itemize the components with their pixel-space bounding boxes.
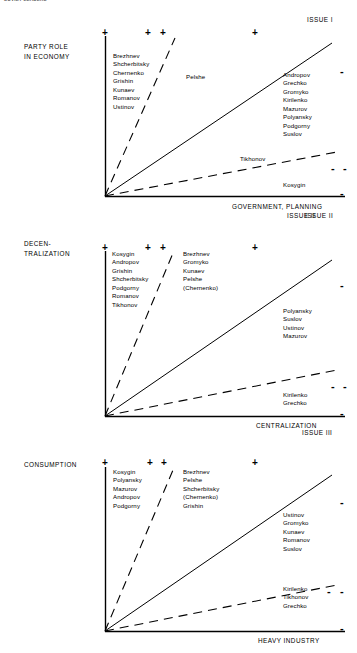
panel-3-group-bottom: Kirilenko Tikhonov Grechko <box>283 585 308 610</box>
name-item: Brezhnev <box>183 250 218 258</box>
name-item: Grechko <box>283 399 307 407</box>
name-item: Podgorny <box>283 122 312 130</box>
name-item: Romanov <box>113 94 149 102</box>
plus-sign-2: + <box>147 458 153 468</box>
minus-sign-4: - <box>340 188 344 198</box>
name-item: Kirilenko <box>283 96 312 104</box>
side-title-line-1: DECEN- <box>24 239 70 249</box>
panel-issue-1: PARTY ROLE IN ECONOMY ISSUE I + + + + - … <box>0 0 357 218</box>
minus-sign-1: - <box>340 497 344 507</box>
minus-sign-4: - <box>340 408 344 418</box>
panel-2-group-mid: Brezhnev Gromyko Kunaev Pelshe (Chernenk… <box>183 250 218 292</box>
name-item: Brezhnev <box>113 52 149 60</box>
plus-sign-3: + <box>160 28 166 38</box>
plus-sign-4: + <box>252 243 258 253</box>
panel-issue-2: ISSUE II DECEN- TRALIZATION + + + + - - … <box>0 215 357 437</box>
name-item: Podgorny <box>112 284 148 292</box>
side-title-line-1: CONSUMPTION <box>24 460 77 470</box>
minus-sign-3: - <box>343 163 347 173</box>
name-item: Tikhonov <box>283 593 308 601</box>
name-item: Ustinov <box>283 511 310 519</box>
name-item: Kunaev <box>183 267 218 275</box>
plus-sign-4: + <box>252 28 258 38</box>
name-item: (Chernenko) <box>183 493 219 501</box>
figure-page: SOVIET LEADERS PARTY ROLE IN ECONOMY ISS… <box>0 0 357 653</box>
name-item: Romanov <box>112 292 148 300</box>
panel-2-side-title: DECEN- TRALIZATION <box>24 239 70 258</box>
name-item: Suslov <box>283 130 312 138</box>
name-item: Kirilenko <box>283 391 307 399</box>
plus-sign-axis: + <box>102 458 108 468</box>
minus-sign-3: - <box>340 586 344 596</box>
minus-sign-3: - <box>343 381 347 391</box>
name-item: Suslov <box>283 315 312 323</box>
panel-2-group-bottom: Kirilenko Grechko <box>283 391 307 408</box>
plus-sign-4: + <box>252 458 258 468</box>
side-title-line-1: PARTY ROLE <box>24 42 70 52</box>
minus-sign-4: - <box>340 623 344 633</box>
name-item: Shcherbitsky <box>112 275 148 283</box>
panel-1-group-bottom: Kosygin <box>283 181 306 189</box>
panel-3-group-mid: Brezhnev Pelshe Shcherbitsky (Chernenko)… <box>183 468 219 510</box>
x-axis-title-line-1: GOVERNMENT, PLANNING <box>232 202 322 211</box>
name-item: (Chernenko) <box>183 284 218 292</box>
name-item: Podgorny <box>113 502 142 510</box>
name-item: Grishin <box>112 267 148 275</box>
name-item: Polyansky <box>283 307 312 315</box>
panel-1-x-axis-title: GOVERNMENT, PLANNING <box>232 202 322 211</box>
name-item: Pelshe <box>186 73 205 81</box>
name-item: Grishin <box>183 502 219 510</box>
x-axis-title-line-1: HEAVY INDUSTRY <box>258 636 320 645</box>
name-item: Pelshe <box>183 476 219 484</box>
panel-2-group-right: Polyansky Suslov Ustinov Mazurov <box>283 307 312 341</box>
name-item: Grechko <box>283 79 312 87</box>
panel-2-x-axis-issue: ISSUE III <box>302 428 332 437</box>
name-item: Pelshe <box>183 275 218 283</box>
plus-sign-3: + <box>161 458 167 468</box>
name-item: Kosygin <box>112 250 148 258</box>
name-item: Gromyko <box>283 88 312 96</box>
panel-1-group-mid: Pelshe <box>186 73 205 81</box>
name-item: Shcherbitsky <box>183 485 219 493</box>
minus-sign-2: - <box>331 163 335 173</box>
name-item: Mazurov <box>283 332 312 340</box>
name-item: Chernenko <box>113 69 149 77</box>
name-item: Tikhonov <box>112 301 148 309</box>
name-item: Mazurov <box>283 105 312 113</box>
panel-1-group-left: Brezhnev Shcherbitsky Chernenko Grishin … <box>113 52 149 111</box>
name-item: Kirilenko <box>283 585 308 593</box>
name-item: Andropov <box>112 258 148 266</box>
name-item: Polyansky <box>283 113 312 121</box>
minus-sign-2: - <box>327 586 331 596</box>
panel-3-group-left: Kosygin Polyansky Mazurov Andropov Podgo… <box>113 468 142 510</box>
plus-sign-3: + <box>160 243 166 253</box>
name-item: Brezhnev <box>183 468 219 476</box>
panel-3-group-right: Ustinov Gromyko Kunaev Romanov Suslov <box>283 511 310 553</box>
panel-1-issue-title: ISSUE I <box>307 16 333 23</box>
name-item: Gromyko <box>183 258 218 266</box>
name-item: Suslov <box>283 545 310 553</box>
name-item: Polyansky <box>113 476 142 484</box>
panel-issue-3: CONSUMPTION + + + + - - - - Kosygin Poly… <box>0 437 357 653</box>
panel-2-group-left: Kosygin Andropov Grishin Shcherbitsky Po… <box>112 250 148 309</box>
side-title-line-2: TRALIZATION <box>24 249 70 259</box>
name-item: Ustinov <box>283 324 312 332</box>
minus-sign-1: - <box>340 280 344 290</box>
plus-sign-axis: + <box>102 28 108 38</box>
name-item: Kunaev <box>113 86 149 94</box>
plus-sign-axis: + <box>102 243 108 253</box>
name-item: Andropov <box>113 493 142 501</box>
panel-3-x-axis-title: HEAVY INDUSTRY <box>258 636 320 645</box>
name-item: Shcherbitsky <box>113 60 149 68</box>
name-item: Kosygin <box>283 181 306 189</box>
name-item: Romanov <box>283 536 310 544</box>
minus-sign-2: - <box>331 381 335 391</box>
minus-sign-1: - <box>340 66 344 76</box>
panel-1-ray-label: Tikhonov <box>240 155 265 162</box>
plus-sign-2: + <box>145 28 151 38</box>
name-item: Kunaev <box>283 528 310 536</box>
panel-3-side-title: CONSUMPTION <box>24 460 77 470</box>
name-item: Andropov <box>283 71 312 79</box>
panel-1-group-right: Andropov Grechko Gromyko Kirilenko Mazur… <box>283 71 312 139</box>
name-item: Mazurov <box>113 485 142 493</box>
